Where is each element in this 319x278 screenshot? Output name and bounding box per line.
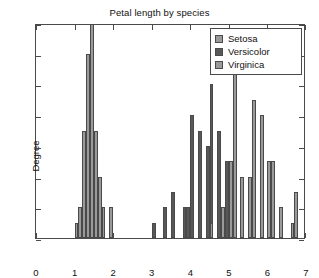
- y-tick-right-2: [299, 209, 304, 210]
- x-tick-1: [75, 233, 76, 238]
- legend-swatch-setosa-icon: [215, 35, 223, 43]
- x-tick-top-2: [113, 25, 114, 30]
- x-tick-label-7: 7: [294, 267, 318, 278]
- bar-virginica-5.3: [240, 177, 244, 238]
- legend-label-virginica: Virginica: [228, 59, 264, 70]
- bar-virginica-4.8: [221, 207, 225, 238]
- y-tick-right-10: [299, 86, 304, 87]
- y-tick-right-8: [299, 117, 304, 118]
- legend-swatch-versicolor-icon: [215, 48, 223, 56]
- y-tick-0: [36, 240, 41, 241]
- bar-versicolor-4: [190, 115, 194, 238]
- x-tick-label-5: 5: [217, 267, 241, 278]
- bar-versicolor-4.5: [210, 84, 214, 238]
- legend-label-setosa: Setosa: [228, 33, 258, 44]
- y-tick-right-6: [299, 148, 304, 149]
- bar-versicolor-4.2: [198, 131, 202, 239]
- x-tick-top-0: [36, 25, 37, 30]
- bar-virginica-4.5: [210, 223, 214, 238]
- bar-virginica-6.3: [279, 207, 283, 238]
- y-tick-6: [36, 148, 41, 149]
- x-tick-top-4: [190, 25, 191, 30]
- y-tick-4: [36, 179, 41, 180]
- bar-virginica-5.6: [252, 100, 256, 238]
- chart-title: Petal length by species: [0, 7, 319, 18]
- x-tick-2: [113, 233, 114, 238]
- x-tick-label-1: 1: [63, 267, 87, 278]
- x-tick-label-3: 3: [140, 267, 164, 278]
- y-tick-8: [36, 117, 41, 118]
- legend-swatch-virginica-icon: [215, 61, 223, 69]
- y-tick-2: [36, 209, 41, 210]
- y-tick-right-4: [299, 179, 304, 180]
- x-tick-0: [36, 233, 37, 238]
- legend-item-setosa[interactable]: Setosa: [215, 32, 297, 45]
- x-tick-6: [267, 233, 268, 238]
- x-tick-label-2: 2: [101, 267, 125, 278]
- x-tick-top-3: [152, 25, 153, 30]
- y-tick-10: [36, 86, 41, 87]
- x-tick-top-7: [305, 25, 306, 30]
- x-tick-5: [229, 233, 230, 238]
- x-tick-label-0: 0: [24, 267, 48, 278]
- legend-item-versicolor[interactable]: Versicolor: [215, 45, 297, 58]
- x-tick-label-6: 6: [255, 267, 279, 278]
- bar-versicolor-3.3: [163, 207, 167, 238]
- bar-virginica-6.7: [294, 192, 298, 238]
- bar-virginica-5.8: [260, 115, 264, 238]
- x-tick-7: [305, 233, 306, 238]
- y-tick-right-14: [299, 25, 304, 26]
- chart-legend[interactable]: SetosaVersicolorVirginica: [210, 28, 302, 75]
- y-tick-right-0: [299, 240, 304, 241]
- bar-virginica-5.1: [233, 54, 237, 238]
- x-tick-top-1: [75, 25, 76, 30]
- legend-item-virginica[interactable]: Virginica: [215, 58, 297, 71]
- x-tick-3: [152, 233, 153, 238]
- bar-versicolor-3.5: [171, 192, 175, 238]
- x-tick-label-4: 4: [178, 267, 202, 278]
- bar-virginica-6.1: [271, 161, 275, 238]
- y-tick-12: [36, 56, 41, 57]
- legend-label-versicolor: Versicolor: [228, 46, 270, 57]
- x-tick-4: [190, 233, 191, 238]
- bar-setosa-1.7: [102, 207, 106, 238]
